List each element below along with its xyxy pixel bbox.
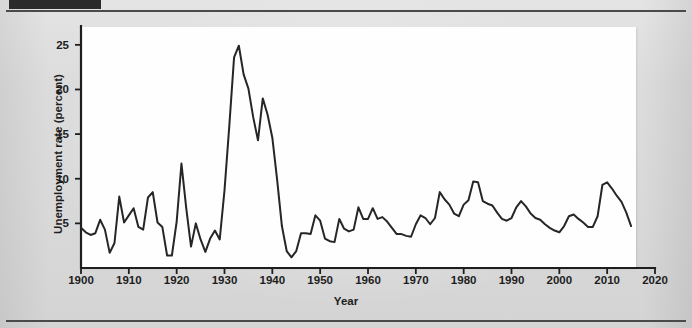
x-tick-label: 1930	[212, 274, 238, 286]
unemployment-rate-chart: 1900191019201930194019501960197019801990…	[0, 12, 692, 312]
x-tick-label: 1980	[451, 274, 477, 286]
axes	[75, 26, 655, 274]
series-unemployment-rate	[81, 46, 631, 258]
x-tick-label: 1950	[307, 274, 333, 286]
x-tick-label: 2020	[642, 274, 668, 286]
footer-rule	[6, 320, 686, 322]
x-tick-label: 1940	[260, 274, 286, 286]
x-tick-label: 2000	[547, 274, 573, 286]
x-tick-label: 1920	[164, 274, 190, 286]
x-tick-label: 1900	[68, 274, 94, 286]
page-header-tab	[9, 0, 101, 9]
plot-svg	[0, 12, 692, 312]
x-tick-label: 2010	[594, 274, 620, 286]
x-tick-label: 1910	[116, 274, 142, 286]
x-tick-label: 1960	[355, 274, 381, 286]
x-tick-label: 1970	[403, 274, 429, 286]
y-axis-title: Unemployment rate (percent)	[52, 49, 64, 259]
x-axis-title: Year	[0, 295, 692, 307]
x-tick-label: 1990	[499, 274, 525, 286]
data-series	[81, 46, 631, 258]
